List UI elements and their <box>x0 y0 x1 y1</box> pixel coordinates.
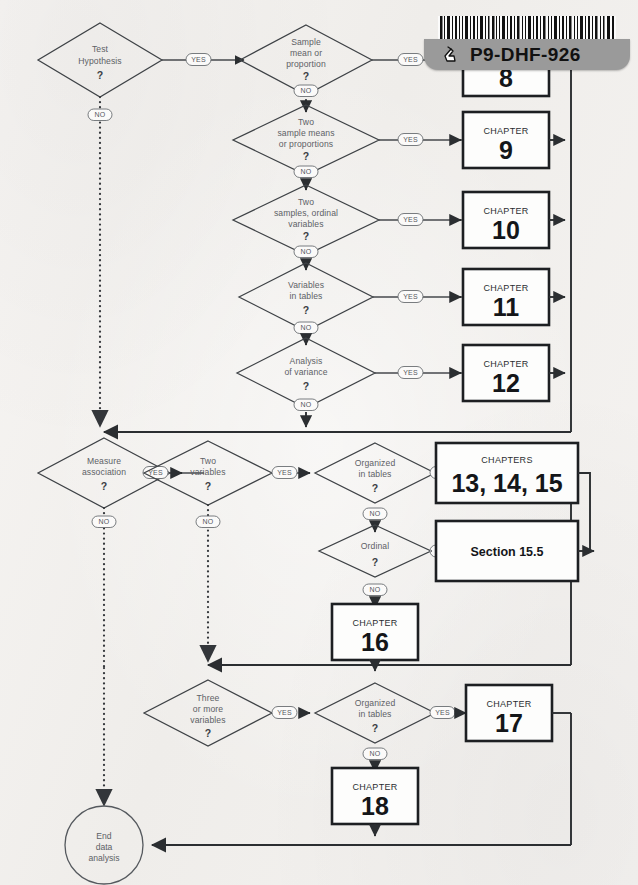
yes-pill-anova: YES <box>398 367 423 379</box>
svg-text:data: data <box>96 842 113 852</box>
svg-text:variables: variables <box>288 219 323 229</box>
svg-text:NO: NO <box>301 324 312 331</box>
yes-pill-two-ordinal: YES <box>398 214 423 226</box>
svg-text:NO: NO <box>370 750 381 757</box>
chapters-13-14-15-box: CHAPTERS 13, 14, 15 <box>436 443 578 503</box>
edge-ch131415-out <box>578 473 590 551</box>
svg-text:9: 9 <box>499 136 513 164</box>
svg-text:in tables: in tables <box>359 469 392 479</box>
svg-text:NO: NO <box>370 510 381 517</box>
svg-text:NO: NO <box>203 518 214 525</box>
svg-text:10: 10 <box>492 216 520 244</box>
chapter-11-box: CHAPTER 11 <box>463 269 549 325</box>
sample-mean-node: Sample mean or proportion ? <box>240 25 372 95</box>
svg-text:Section 15.5: Section 15.5 <box>471 545 544 559</box>
svg-text:?: ? <box>101 480 107 492</box>
svg-text:?: ? <box>303 304 309 316</box>
svg-text:NO: NO <box>99 518 110 525</box>
svg-text:in tables: in tables <box>290 291 323 301</box>
chapter-17-box: CHAPTER 17 <box>466 685 552 741</box>
chapter-10-box: CHAPTER 10 <box>463 192 549 248</box>
svg-text:YES: YES <box>403 56 418 63</box>
variables-in-tables-node: Variables in tables ? <box>239 263 373 331</box>
svg-text:variables: variables <box>190 715 225 725</box>
yes-pill-start: YES <box>186 54 211 66</box>
no-pill-measure-assoc: NO <box>92 516 116 528</box>
svg-text:YES: YES <box>403 369 418 376</box>
no-label: NO <box>95 111 106 118</box>
svg-text:NO: NO <box>370 586 381 593</box>
no-pill-two-ordinal: NO <box>294 246 318 258</box>
svg-text:YES: YES <box>277 709 292 716</box>
svg-text:NO: NO <box>301 401 312 408</box>
svg-text:association: association <box>82 467 126 477</box>
svg-text:?: ? <box>372 556 378 568</box>
no-pill-org1: NO <box>363 508 387 520</box>
svg-text:Two: Two <box>298 117 314 127</box>
svg-text:CHAPTER: CHAPTER <box>483 359 528 369</box>
svg-text:Three: Three <box>197 693 220 703</box>
svg-text:YES: YES <box>403 136 418 143</box>
chapter-12-box: CHAPTER 12 <box>463 345 549 401</box>
svg-text:?: ? <box>205 727 211 739</box>
svg-text:16: 16 <box>361 628 389 656</box>
yes-pill-org2: YES <box>430 707 455 719</box>
svg-text:or proportions: or proportions <box>279 139 333 149</box>
svg-text:CHAPTER: CHAPTER <box>352 618 397 628</box>
no-pill-org2: NO <box>363 748 387 760</box>
svg-text:Two: Two <box>200 456 216 466</box>
svg-text:Organized: Organized <box>355 458 396 468</box>
two-sample-means-node: Two sample means or proportions ? <box>233 105 379 175</box>
test-hypothesis-line-1: Test <box>92 44 109 54</box>
chapter-16-box: CHAPTER 16 <box>332 604 418 660</box>
no-pill-sample-mean: NO <box>294 85 318 97</box>
svg-text:?: ? <box>303 230 309 242</box>
svg-text:Measure: Measure <box>87 456 121 466</box>
svg-text:Organized: Organized <box>355 698 396 708</box>
test-hypothesis-line-2: Hypothesis <box>78 56 122 66</box>
svg-text:YES: YES <box>277 469 292 476</box>
svg-text:?: ? <box>372 482 378 494</box>
no-pill-vars-tables: NO <box>294 322 318 334</box>
svg-text:12: 12 <box>492 369 520 397</box>
svg-text:Two: Two <box>298 197 314 207</box>
yes-label: YES <box>191 56 206 63</box>
svg-text:?: ? <box>303 380 309 392</box>
svg-text:YES: YES <box>403 216 418 223</box>
sample-mean-line-3: proportion <box>286 59 326 69</box>
svg-text:Ordinal: Ordinal <box>361 541 389 551</box>
svg-text:18: 18 <box>361 792 389 820</box>
svg-text:CHAPTER: CHAPTER <box>483 206 528 216</box>
chapter-8-box: CHAPTER 8 <box>463 40 549 96</box>
organized-in-tables-1-node: Organized in tables ? <box>315 443 435 503</box>
svg-text:CHAPTER: CHAPTER <box>483 283 528 293</box>
flowchart-canvas: Test Hypothesis ? YES NO Sample mean or … <box>0 0 638 885</box>
svg-text:of variance: of variance <box>284 367 327 377</box>
svg-text:?: ? <box>303 150 309 162</box>
svg-text:CHAPTER: CHAPTER <box>483 126 528 136</box>
svg-text:YES: YES <box>435 709 450 716</box>
svg-text:8: 8 <box>499 64 513 92</box>
section-15-5-box: Section 15.5 <box>436 521 578 581</box>
svg-text:analysis: analysis <box>88 853 119 863</box>
two-samples-ordinal-node: Two samples, ordinal variables ? <box>233 185 379 255</box>
svg-text:variables: variables <box>190 467 225 477</box>
svg-text:NO: NO <box>301 168 312 175</box>
sample-mean-line-2: mean or <box>290 48 322 58</box>
organized-in-tables-2-node: Organized in tables ? <box>315 683 435 743</box>
flowchart-page: Test Hypothesis ? YES NO Sample mean or … <box>0 0 638 885</box>
end-data-analysis-node: End data analysis <box>65 806 143 884</box>
svg-text:CHAPTER: CHAPTER <box>486 699 531 709</box>
no-pill-two-means: NO <box>294 166 318 178</box>
ordinal-node: Ordinal ? <box>319 525 431 577</box>
chapter-9-box: CHAPTER 9 <box>463 112 549 168</box>
svg-text:CHAPTER: CHAPTER <box>483 54 528 64</box>
yes-pill-sample-mean: YES <box>398 54 423 66</box>
no-pill-anova: NO <box>294 399 318 411</box>
analysis-of-variance-node: Analysis of variance ? <box>237 338 375 408</box>
no-pill-ordinal: NO <box>363 584 387 596</box>
chapter-18-box: CHAPTER 18 <box>332 768 418 824</box>
svg-text:?: ? <box>372 722 378 734</box>
svg-text:in tables: in tables <box>359 709 392 719</box>
svg-text:samples, ordinal: samples, ordinal <box>274 208 338 218</box>
